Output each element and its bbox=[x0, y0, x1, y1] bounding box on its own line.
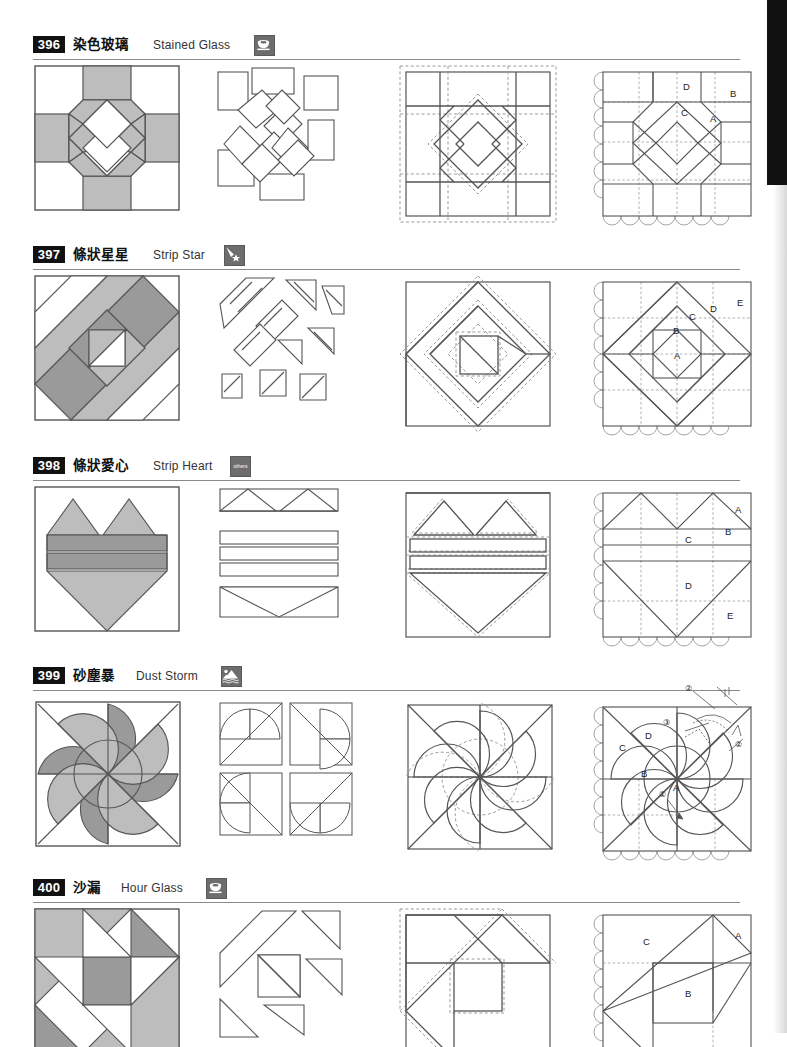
seam-allowance-398 bbox=[398, 485, 558, 645]
labeled-template-397: A B C D E bbox=[597, 274, 757, 436]
seam-allowance-399 bbox=[398, 691, 563, 859]
category-icon-landscape bbox=[221, 666, 242, 687]
step-mark: ③ bbox=[663, 718, 670, 727]
piece-label: D bbox=[685, 580, 692, 591]
piece-label: C bbox=[681, 107, 688, 118]
category-icon-others: others bbox=[230, 456, 251, 477]
category-icon-cup bbox=[254, 35, 275, 56]
piece-label: B bbox=[685, 988, 691, 999]
exploded-pieces-399 bbox=[216, 699, 356, 839]
piece-label: A bbox=[674, 350, 681, 361]
piece-label: B bbox=[730, 88, 736, 99]
finished-block-398 bbox=[33, 485, 181, 633]
exploded-pieces-396 bbox=[216, 64, 346, 204]
pattern-name-chinese: 砂塵暴 bbox=[73, 667, 115, 684]
pattern-name-english: Dust Storm bbox=[136, 668, 198, 684]
header-rule bbox=[33, 269, 740, 270]
pattern-name-english: Hour Glass bbox=[121, 880, 183, 896]
piece-label: E bbox=[727, 610, 733, 621]
pattern-header-397: 397 條狀星星 Strip Star bbox=[33, 246, 740, 272]
seam-allowance-397 bbox=[398, 274, 558, 434]
finished-block-396 bbox=[33, 64, 181, 212]
piece-label: B bbox=[641, 768, 647, 779]
pattern-name-english: Stained Glass bbox=[153, 37, 230, 53]
step-mark: ② bbox=[735, 740, 742, 749]
pattern-name-chinese: 條狀星星 bbox=[73, 246, 129, 263]
labeled-template-399: ② ② ① ③ A B C D bbox=[597, 677, 772, 859]
labeled-template-396: D B C A bbox=[597, 64, 757, 226]
piece-label: D bbox=[710, 303, 717, 314]
pattern-header-396: 396 染色玻璃 Stained Glass bbox=[33, 36, 740, 62]
piece-label: E bbox=[737, 297, 743, 308]
pattern-name-english: Strip Star bbox=[153, 247, 205, 263]
pattern-number-badge: 396 bbox=[33, 36, 65, 53]
piece-label: A bbox=[710, 113, 717, 124]
pattern-name-english: Strip Heart bbox=[153, 458, 213, 474]
finished-block-400 bbox=[33, 907, 181, 1037]
piece-label: C bbox=[689, 311, 696, 322]
exploded-pieces-400 bbox=[216, 907, 346, 1037]
header-rule bbox=[33, 902, 740, 903]
exploded-pieces-398 bbox=[216, 485, 350, 621]
pattern-number-badge: 398 bbox=[33, 457, 65, 474]
page-edge-tab-marker bbox=[767, 0, 787, 185]
piece-label: B bbox=[673, 325, 679, 336]
pattern-name-chinese: 沙漏 bbox=[73, 879, 101, 896]
page-edge-shadow bbox=[773, 185, 787, 1033]
labeled-template-398: A B C D E bbox=[597, 485, 757, 647]
pattern-number-badge: 399 bbox=[33, 667, 65, 684]
labeled-template-400: A B C bbox=[597, 907, 757, 1047]
header-rule bbox=[33, 480, 740, 481]
piece-label: C bbox=[685, 534, 692, 545]
step-mark: ① bbox=[659, 790, 666, 799]
piece-label: D bbox=[683, 81, 690, 92]
finished-block-397 bbox=[33, 274, 181, 422]
piece-label: A bbox=[673, 782, 680, 793]
piece-label: D bbox=[645, 730, 652, 741]
step-mark: ② bbox=[685, 684, 692, 693]
piece-label: C bbox=[619, 742, 626, 753]
seam-allowance-396 bbox=[398, 64, 558, 224]
pattern-number-badge: 400 bbox=[33, 879, 65, 896]
piece-label: A bbox=[735, 930, 742, 941]
pattern-header-398: 398 條狀愛心 Strip Heart others bbox=[33, 457, 740, 483]
pattern-header-400: 400 沙漏 Hour Glass bbox=[33, 879, 740, 905]
piece-label: C bbox=[643, 936, 650, 947]
category-icon-cup bbox=[206, 878, 227, 899]
category-icon-shooting-star bbox=[224, 245, 245, 266]
header-rule bbox=[33, 59, 740, 60]
pattern-number-badge: 397 bbox=[33, 246, 65, 263]
piece-label: A bbox=[735, 504, 742, 515]
piece-label: B bbox=[725, 526, 731, 537]
category-icon-label: others bbox=[231, 457, 250, 476]
exploded-pieces-397 bbox=[216, 274, 348, 412]
pattern-name-chinese: 條狀愛心 bbox=[73, 457, 129, 474]
seam-allowance-400 bbox=[398, 907, 558, 1047]
finished-block-399 bbox=[33, 699, 183, 849]
pattern-name-chinese: 染色玻璃 bbox=[73, 36, 129, 53]
